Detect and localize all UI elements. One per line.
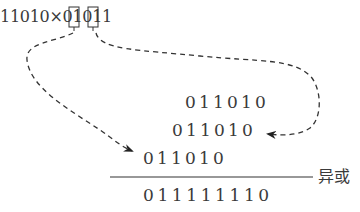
xor-multiplication-diagram: 11010×01011 011010 011010 011010 0111111…	[0, 0, 360, 212]
diagram-graphics	[0, 0, 360, 212]
dashed-arrow-right	[96, 33, 319, 135]
highlight-box-bit-2	[88, 7, 98, 27]
highlight-box-bit-1	[69, 7, 79, 27]
dashed-arrow-left	[27, 33, 132, 151]
